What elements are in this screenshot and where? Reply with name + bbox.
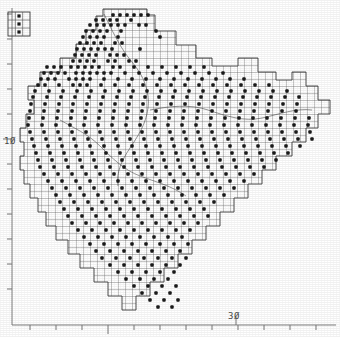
- occurrence-dot: [143, 95, 146, 98]
- occurrence-dot: [256, 144, 259, 147]
- occurrence-dot: [214, 179, 217, 182]
- occurrence-dot: [34, 151, 37, 154]
- occurrence-dot: [223, 116, 226, 119]
- occurrence-dot: [194, 193, 197, 196]
- occurrence-dot: [222, 193, 225, 196]
- occurrence-dot: [211, 102, 214, 105]
- occurrence-dot: [87, 95, 90, 98]
- occurrence-dot: [132, 13, 135, 16]
- occurrence-dot: [172, 270, 175, 273]
- occurrence-dot: [74, 77, 77, 80]
- occurrence-dot: [118, 65, 121, 68]
- occurrence-dot: [60, 144, 63, 147]
- occurrence-dot: [57, 83, 60, 86]
- occurrence-dot: [207, 71, 210, 74]
- occurrence-dot: [132, 151, 135, 154]
- occurrence-dot: [118, 207, 121, 210]
- occurrence-dot: [213, 95, 216, 98]
- occurrence-dot: [127, 102, 130, 105]
- occurrence-dot: [130, 77, 133, 80]
- occurrence-dot: [112, 130, 115, 133]
- occurrence-dot: [116, 144, 119, 147]
- occurrence-dot: [74, 71, 77, 74]
- occurrence-dot: [101, 95, 104, 98]
- occurrence-dot: [124, 235, 127, 238]
- occurrence-dot: [99, 102, 102, 105]
- occurrence-dot: [154, 172, 157, 175]
- occurrence-dot: [84, 29, 87, 32]
- occurrence-dot: [178, 214, 181, 217]
- occurrence-dot: [214, 144, 217, 147]
- occurrence-dot: [154, 109, 157, 112]
- occurrence-dot: [225, 83, 228, 86]
- occurrence-dot: [174, 228, 177, 231]
- occurrence-dot: [157, 95, 160, 98]
- occurrence-dot: [74, 144, 77, 147]
- occurrence-dot: [50, 186, 53, 189]
- occurrence-dot: [68, 123, 71, 126]
- occurrence-dot: [172, 77, 175, 80]
- occurrence-dot: [192, 165, 195, 168]
- occurrence-dot: [242, 179, 245, 182]
- occurrence-dot: [162, 298, 165, 301]
- occurrence-dot: [120, 158, 123, 161]
- occurrence-dot: [168, 221, 171, 224]
- occurrence-dot: [201, 89, 204, 92]
- occurrence-dot: [82, 235, 85, 238]
- occurrence-dot: [52, 65, 55, 68]
- occurrence-dot: [262, 165, 265, 168]
- occurrence-dot: [186, 179, 189, 182]
- occurrence-dot: [82, 193, 85, 196]
- occurrence-dot: [104, 228, 107, 231]
- occurrence-dot: [186, 144, 189, 147]
- occurrence-dot: [69, 116, 72, 119]
- occurrence-dot: [140, 291, 143, 294]
- occurrence-dot: [41, 116, 44, 119]
- occurrence-dot: [192, 214, 195, 217]
- occurrence-dot: [134, 158, 137, 161]
- occurrence-dot: [206, 165, 209, 168]
- occurrence-dot: [130, 242, 133, 245]
- occurrence-dot: [60, 179, 63, 182]
- occurrence-dot: [88, 179, 91, 182]
- occurrence-dot: [239, 102, 242, 105]
- occurrence-dot: [239, 83, 242, 86]
- grid-scale-inset: [8, 12, 30, 36]
- occurrence-dot: [72, 200, 75, 203]
- occurrence-dot: [91, 29, 94, 32]
- occurrence-dot: [174, 284, 177, 287]
- occurrence-dot: [187, 89, 190, 92]
- occurrence-dot: [298, 144, 301, 147]
- occurrence-dot: [45, 95, 48, 98]
- occurrence-dot: [210, 172, 213, 175]
- occurrence-dot: [162, 158, 165, 161]
- occurrence-dot: [84, 221, 87, 224]
- occurrence-dot: [146, 13, 149, 16]
- occurrence-dot: [156, 256, 159, 259]
- occurrence-dot: [144, 144, 147, 147]
- occurrence-dot: [232, 186, 235, 189]
- occurrence-dot: [118, 151, 121, 154]
- occurrence-dot: [190, 186, 193, 189]
- occurrence-dot: [194, 123, 197, 126]
- occurrence-dot: [120, 186, 123, 189]
- occurrence-dot: [176, 186, 179, 189]
- occurrence-dot: [188, 151, 191, 154]
- occurrence-dot: [85, 41, 88, 44]
- occurrence-dot: [237, 116, 240, 119]
- occurrence-dot: [94, 214, 97, 217]
- occurrence-dot: [104, 151, 107, 154]
- occurrence-dot: [202, 65, 205, 68]
- occurrence-dot: [144, 77, 147, 80]
- occurrence-dot: [169, 102, 172, 105]
- occurrence-dot: [128, 256, 131, 259]
- occurrence-dot: [134, 186, 137, 189]
- occurrence-dot: [296, 137, 299, 140]
- occurrence-dot: [59, 65, 62, 68]
- occurrence-dot: [104, 207, 107, 210]
- occurrence-dot: [204, 186, 207, 189]
- occurrence-dot: [82, 47, 85, 50]
- occurrence-dot: [212, 200, 215, 203]
- occurrence-dot: [196, 221, 199, 224]
- occurrence-dot: [115, 95, 118, 98]
